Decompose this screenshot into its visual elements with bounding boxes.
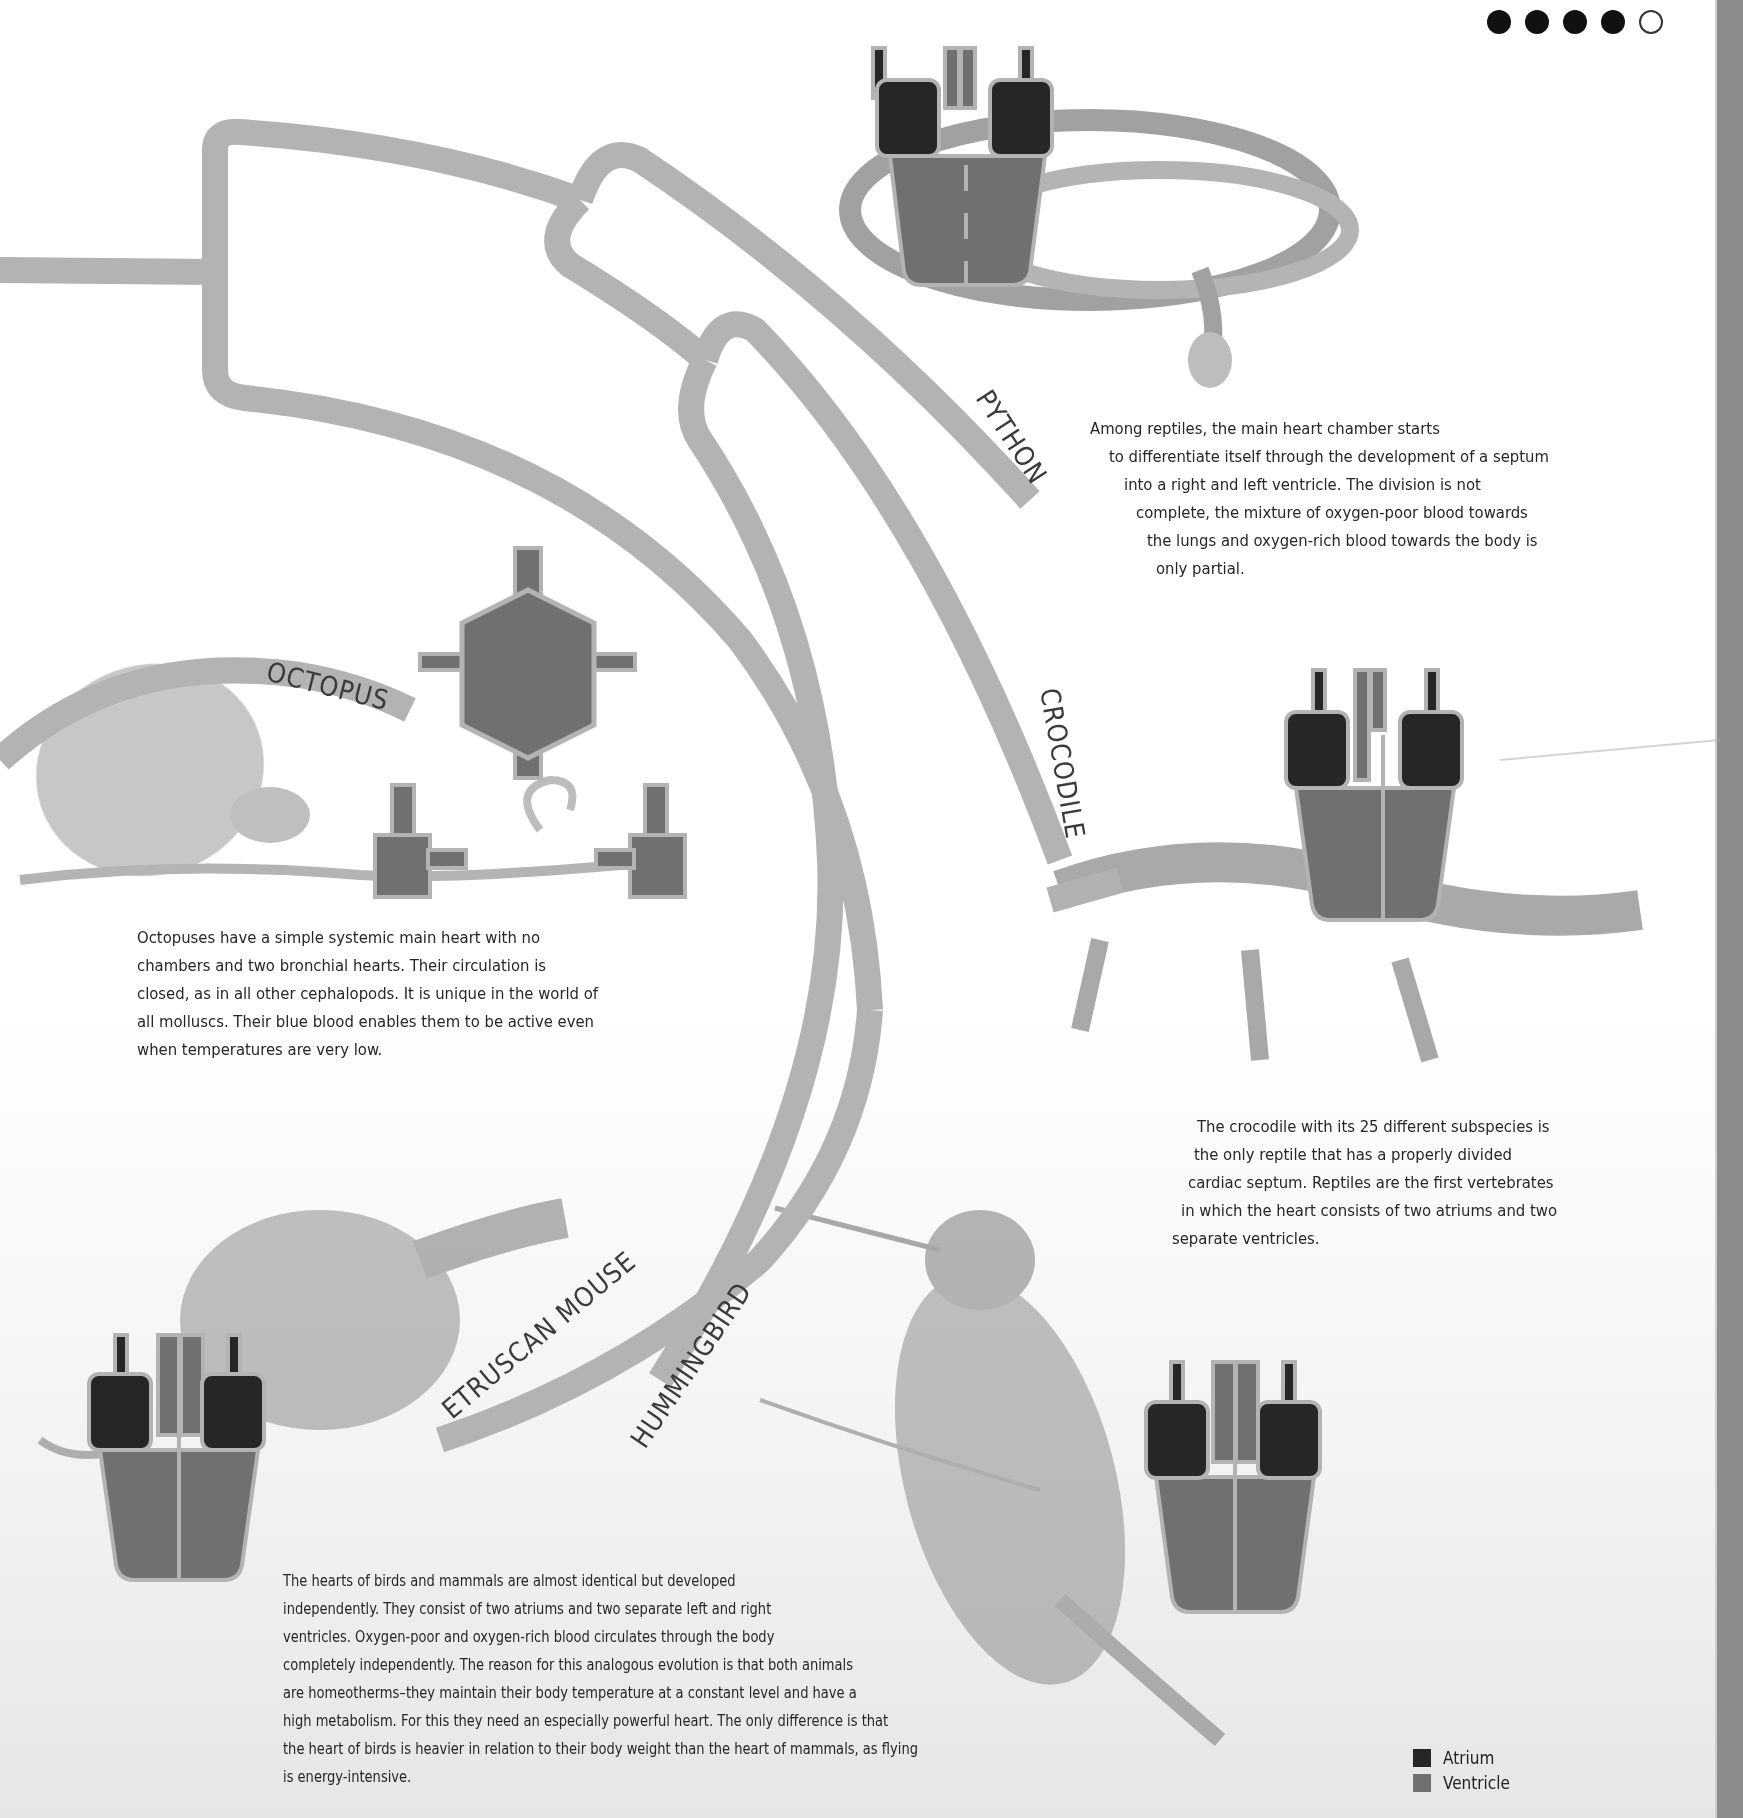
legend-item-ventricle: Ventricle	[1413, 1770, 1510, 1795]
text-line: chambers and two bronchial hearts. Their…	[137, 952, 546, 980]
branch-reptile-node	[557, 200, 705, 360]
text-line: closed, as in all other cephalopods. It …	[137, 980, 598, 1008]
bronchial-heart-left	[375, 785, 466, 897]
atrium-right	[990, 80, 1052, 156]
legend: Atrium Ventricle	[1413, 1745, 1510, 1795]
text-line: The crocodile with its 25 different subs…	[1197, 1113, 1550, 1141]
legend-label: Atrium	[1443, 1748, 1494, 1768]
hummingbird-heart-diagram	[1146, 1362, 1320, 1612]
text-line: to differentiate itself through the deve…	[1109, 443, 1549, 471]
legend-item-atrium: Atrium	[1413, 1745, 1510, 1770]
text-line: all molluscs. Their blue blood enables t…	[137, 1008, 594, 1036]
atrium-right	[1258, 1402, 1320, 1478]
text-line: when temperatures are very low.	[137, 1036, 382, 1064]
mouse-heart-diagram	[89, 1335, 264, 1580]
atrium-left	[1286, 712, 1348, 788]
text-line: completely independently. The reason for…	[283, 1651, 853, 1679]
text-line: cardiac septum. Reptiles are the first v…	[1188, 1169, 1554, 1197]
text-line: Octopuses have a simple systemic main he…	[137, 924, 540, 952]
text-line: is energy-intensive.	[283, 1763, 411, 1791]
crocodile-heart-diagram	[1286, 670, 1462, 920]
branch-root	[0, 270, 215, 272]
text-line: ventricles. Oxygen-poor and oxygen-rich …	[283, 1623, 774, 1651]
ventricle-swatch	[1413, 1774, 1431, 1792]
text-line: the lungs and oxygen-rich blood towards …	[1147, 527, 1538, 555]
bronchial-heart-right	[596, 785, 685, 897]
atrium-left	[1146, 1402, 1208, 1478]
evolution-tree: PYTHON CROCODILE OCTOPUS ETRUSCAN MOUSE …	[0, 0, 1743, 1818]
label-octopus: OCTOPUS	[264, 656, 393, 716]
text-line: Among reptiles, the main heart chamber s…	[1090, 415, 1440, 443]
atrium-right	[1400, 712, 1462, 788]
text-line: the heart of birds is heavier in relatio…	[283, 1735, 918, 1763]
text-line: high metabolism. For this they need an e…	[283, 1707, 888, 1735]
branch-upper	[215, 132, 580, 272]
text-line: The hearts of birds and mammals are almo…	[283, 1567, 736, 1595]
text-line: only partial.	[1156, 555, 1245, 583]
octopus-hearts-diagram	[375, 548, 685, 897]
text-line: separate ventricles.	[1172, 1225, 1320, 1253]
atrium-left	[89, 1374, 151, 1450]
text-line: into a right and left ventricle. The div…	[1124, 471, 1481, 499]
legend-label: Ventricle	[1443, 1773, 1510, 1793]
text-line: complete, the mixture of oxygen-poor blo…	[1136, 499, 1528, 527]
text-line: in which the heart consists of two atriu…	[1181, 1197, 1557, 1225]
text-line: the only reptile that has a properly div…	[1194, 1141, 1512, 1169]
atrium-right	[202, 1374, 264, 1450]
atrium-left	[877, 80, 939, 156]
python-heart-diagram	[873, 48, 1052, 285]
systemic-heart	[462, 590, 594, 758]
atrium-swatch	[1413, 1749, 1431, 1767]
text-line: independently. They consist of two atriu…	[283, 1595, 771, 1623]
text-line: are homeotherms–they maintain their body…	[283, 1679, 857, 1707]
